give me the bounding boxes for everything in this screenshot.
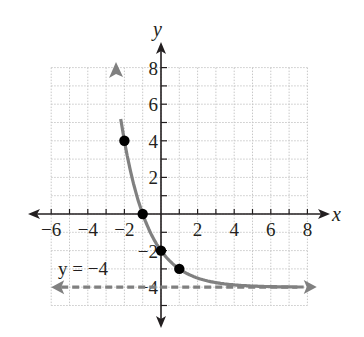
y-tick-label: 2 [149,167,159,188]
asymptote-label: y = −4 [58,258,108,279]
y-tick-label: 8 [149,58,159,79]
data-point [174,264,184,274]
y-tick-label: 4 [149,131,159,152]
curve-right-arrow-icon [304,280,317,294]
x-tick-label: −6 [41,219,61,240]
data-point [119,136,129,146]
x-axis-label: x [331,203,341,225]
curve-up-arrow-icon [109,62,123,78]
x-tick-label: 4 [229,219,239,240]
x-tick-label: −4 [78,219,99,240]
data-point [138,209,148,219]
y-axis-label: y [151,18,162,41]
x-tick-label: 6 [266,219,276,240]
data-point [156,245,166,255]
x-tick-label: −2 [114,219,134,240]
x-tick-label: 2 [193,219,203,240]
y-tick-label: 6 [149,94,159,115]
x-tick-label: 8 [303,219,313,240]
graph: −6−4−224688642−2−4 x y y = −4 [0,0,364,337]
